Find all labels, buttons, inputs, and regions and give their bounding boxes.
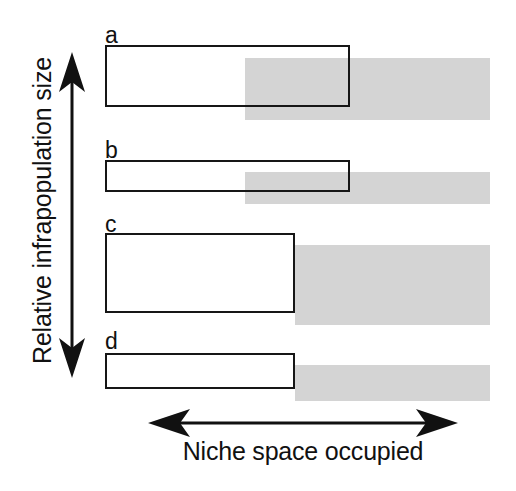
outline-bar-d bbox=[105, 353, 295, 389]
bar-label-c: c bbox=[105, 213, 117, 236]
x-axis-label: Niche space occupied bbox=[118, 437, 488, 466]
niche-space-figure: Relative infrapopulation size a b c d bbox=[0, 0, 516, 491]
outline-bar-a bbox=[105, 45, 350, 107]
shade-bar-d bbox=[295, 365, 490, 401]
shade-bar-c bbox=[295, 245, 490, 325]
bar-label-a: a bbox=[105, 24, 118, 47]
bar-label-d: d bbox=[105, 330, 118, 353]
outline-bar-b bbox=[105, 160, 350, 192]
bars-area: a b c d bbox=[0, 0, 516, 405]
outline-bar-c bbox=[105, 233, 295, 313]
caption-strip bbox=[0, 478, 516, 491]
bar-label-b: b bbox=[105, 139, 118, 162]
